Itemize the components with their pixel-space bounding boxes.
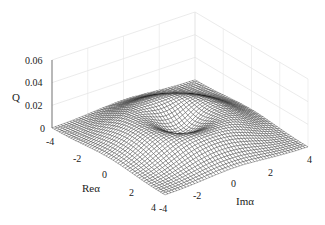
z-axis-label: Q [12, 91, 20, 103]
x-tick-0: 0 [102, 169, 107, 180]
y-axis-label: Imα [236, 195, 254, 207]
y-tick--2: -2 [193, 190, 201, 201]
x-tick-4: 4 [151, 202, 156, 213]
x-tick--2: -2 [73, 153, 81, 164]
y-tick--4: -4 [159, 203, 167, 214]
x-tick-2: 2 [129, 187, 134, 198]
y-tick-4: 4 [307, 154, 312, 165]
z-tick-0: 0 [40, 123, 45, 134]
surface-plot: 0.06 0.04 0.02 0 Q -4 -2 0 2 4 Reα -4 -2… [0, 0, 325, 225]
y-tick-0: 0 [231, 178, 236, 189]
z-tick-0.02: 0.02 [25, 100, 43, 111]
x-tick--4: -4 [46, 136, 54, 147]
z-tick-0.06: 0.06 [25, 55, 43, 66]
z-tick-0.04: 0.04 [25, 77, 43, 88]
x-axis-label: Reα [82, 182, 100, 194]
y-tick-2: 2 [268, 167, 273, 178]
